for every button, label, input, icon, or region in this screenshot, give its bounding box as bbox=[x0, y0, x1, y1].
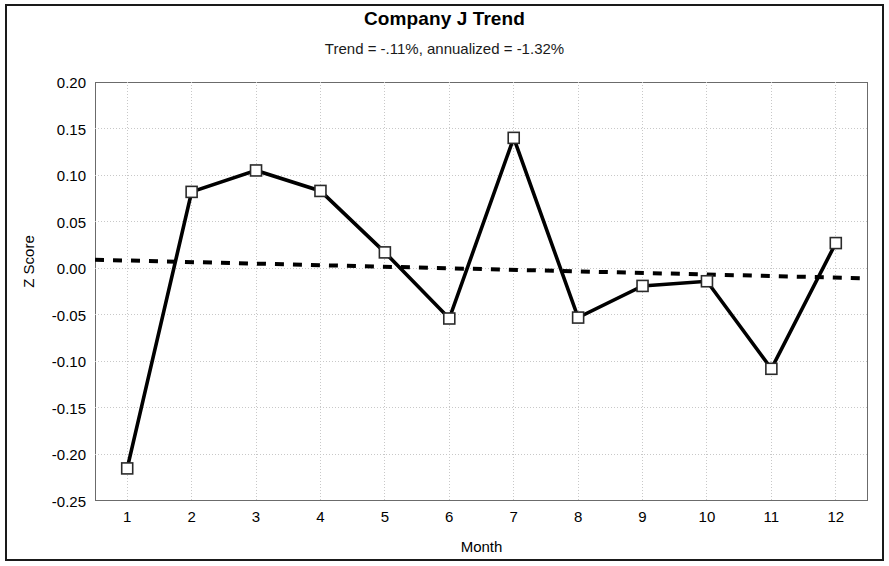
x-tick-label: 9 bbox=[623, 508, 663, 525]
x-tick-label: 8 bbox=[558, 508, 598, 525]
chart-subtitle: Trend = -.11%, annualized = -1.32% bbox=[0, 40, 889, 57]
y-tick-label: 0.10 bbox=[28, 167, 86, 184]
chart-figure: Company J Trend Trend = -.11%, annualize… bbox=[0, 0, 889, 566]
x-tick-label: 10 bbox=[687, 508, 727, 525]
y-tick-label: -0.05 bbox=[28, 306, 86, 323]
y-tick-label: 0.00 bbox=[28, 260, 86, 277]
z-score-series bbox=[127, 138, 836, 469]
x-tick-label: 7 bbox=[494, 508, 534, 525]
x-tick-label: 5 bbox=[365, 508, 405, 525]
x-axis-title: Month bbox=[95, 538, 868, 555]
x-tick-label: 1 bbox=[107, 508, 147, 525]
y-tick-label: 0.20 bbox=[28, 74, 86, 91]
x-tick-label: 4 bbox=[300, 508, 340, 525]
y-tick-label: 0.05 bbox=[28, 213, 86, 230]
data-point-markers bbox=[122, 132, 842, 474]
x-tick-label: 3 bbox=[236, 508, 276, 525]
y-tick-label: -0.10 bbox=[28, 353, 86, 370]
x-tick-label: 2 bbox=[172, 508, 212, 525]
plot-canvas bbox=[95, 82, 868, 501]
trend-line-series bbox=[95, 260, 868, 279]
y-tick-label: -0.25 bbox=[28, 493, 86, 510]
x-tick-label: 6 bbox=[429, 508, 469, 525]
y-axis-title: Z Score bbox=[20, 202, 37, 322]
y-tick-label: 0.15 bbox=[28, 120, 86, 137]
x-axis-tick-labels: 123456789101112 bbox=[95, 508, 868, 530]
x-tick-label: 12 bbox=[816, 508, 856, 525]
y-tick-label: -0.15 bbox=[28, 399, 86, 416]
y-tick-label: -0.20 bbox=[28, 446, 86, 463]
gridlines bbox=[95, 82, 868, 501]
x-tick-label: 11 bbox=[751, 508, 791, 525]
axis-ticks bbox=[95, 82, 836, 501]
chart-title: Company J Trend bbox=[0, 8, 889, 30]
